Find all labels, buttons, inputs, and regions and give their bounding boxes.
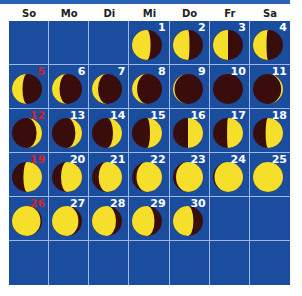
moon-phase-icon — [173, 162, 203, 192]
moon-phase-icon — [253, 118, 283, 148]
day-number: 8 — [158, 66, 166, 78]
day-number: 26 — [30, 198, 45, 210]
calendar-cell — [210, 241, 250, 285]
calendar-cell — [250, 241, 290, 285]
day-number: 30 — [190, 198, 205, 210]
moon-phase-icon — [213, 118, 243, 148]
moon-phase-icon — [253, 30, 283, 60]
calendar-day-cell: 8 — [129, 65, 169, 109]
weekday-saturday: Sa — [250, 6, 290, 21]
moon-phase-icon — [52, 74, 82, 104]
day-number: 15 — [150, 110, 165, 122]
calendar-day-cell: 10 — [210, 65, 250, 109]
weekday-sunday: So — [9, 6, 49, 21]
weekday-friday: Fr — [210, 6, 250, 21]
moon-phase-icon — [213, 30, 243, 60]
day-number: 24 — [231, 154, 246, 166]
day-number: 19 — [30, 154, 45, 166]
calendar-day-cell: 17 — [210, 109, 250, 153]
calendar-day-cell: 15 — [129, 109, 169, 153]
calendar-day-cell: 29 — [129, 197, 169, 241]
calendar-day-cell: 3 — [210, 21, 250, 65]
calendar-day-cell: 12 — [9, 109, 49, 153]
day-number: 2 — [198, 22, 206, 34]
calendar-day-cell: 27 — [49, 197, 89, 241]
calendar-day-cell: 14 — [89, 109, 129, 153]
moon-phase-icon — [52, 206, 82, 236]
moon-phase-icon — [213, 74, 243, 104]
moon-phase-icon — [92, 74, 122, 104]
calendar-day-cell: 13 — [49, 109, 89, 153]
calendar-day-cell: 7 — [89, 65, 129, 109]
day-number: 20 — [70, 154, 85, 166]
moon-phase-icon — [12, 74, 42, 104]
weekday-thursday: Do — [170, 6, 210, 21]
day-number: 4 — [279, 22, 287, 34]
calendar-day-cell: 11 — [250, 65, 290, 109]
moon-phase-icon — [52, 118, 82, 148]
day-number: 12 — [30, 110, 45, 122]
calendar-day-cell: 22 — [129, 153, 169, 197]
day-number: 14 — [110, 110, 125, 122]
moon-phase-icon — [173, 118, 203, 148]
moon-phase-icon — [92, 206, 122, 236]
moon-phase-icon — [132, 118, 162, 148]
calendar-day-cell: 30 — [170, 197, 210, 241]
moon-phase-icon — [173, 30, 203, 60]
calendar-day-cell: 25 — [250, 153, 290, 197]
day-number: 13 — [70, 110, 85, 122]
calendar-cell — [49, 21, 89, 65]
moon-phase-icon — [12, 162, 42, 192]
day-number: 16 — [190, 110, 205, 122]
calendar-day-cell: 2 — [170, 21, 210, 65]
calendar-cell — [9, 241, 49, 285]
calendar-cell — [9, 21, 49, 65]
moon-phase-icon — [92, 118, 122, 148]
calendar-day-cell: 9 — [170, 65, 210, 109]
calendar-day-cell: 6 — [49, 65, 89, 109]
moon-phase-icon — [173, 206, 203, 236]
day-number: 29 — [150, 198, 165, 210]
calendar-day-cell: 21 — [89, 153, 129, 197]
day-number: 3 — [238, 22, 246, 34]
day-number: 9 — [198, 66, 206, 78]
moon-phase-icon — [132, 74, 162, 104]
calendar-day-cell: 23 — [170, 153, 210, 197]
calendar-cell — [210, 197, 250, 241]
weekday-wednesday: Mi — [129, 6, 169, 21]
day-number: 5 — [37, 66, 45, 78]
moon-phase-icon — [173, 74, 203, 104]
calendar-day-cell: 19 — [9, 153, 49, 197]
weekday-monday: Mo — [49, 6, 89, 21]
moon-phase-icon — [253, 162, 283, 192]
moon-phase-icon — [132, 162, 162, 192]
moon-phase-icon — [12, 118, 42, 148]
day-number: 23 — [190, 154, 205, 166]
moon-phase-icon — [52, 162, 82, 192]
weekday-header: So Mo Di Mi Do Fr Sa — [9, 6, 290, 21]
moon-phase-icon — [253, 74, 283, 104]
moon-phase-icon — [12, 206, 42, 236]
calendar-day-cell: 18 — [250, 109, 290, 153]
day-number: 7 — [118, 66, 126, 78]
calendar-cell — [129, 241, 169, 285]
calendar-day-cell: 26 — [9, 197, 49, 241]
day-number: 11 — [272, 66, 287, 78]
calendar-day-cell: 4 — [250, 21, 290, 65]
day-number: 18 — [272, 110, 287, 122]
day-number: 17 — [231, 110, 246, 122]
moon-calendar-grid: 1234567891011121314151617181920212223242… — [9, 21, 290, 285]
calendar-day-cell: 20 — [49, 153, 89, 197]
calendar-day-cell: 24 — [210, 153, 250, 197]
moon-phase-icon — [132, 30, 162, 60]
day-number: 25 — [272, 154, 287, 166]
moon-phase-icon — [92, 162, 122, 192]
day-number: 21 — [110, 154, 125, 166]
weekday-tuesday: Di — [89, 6, 129, 21]
calendar-cell — [170, 241, 210, 285]
calendar-cell — [250, 197, 290, 241]
day-number: 10 — [231, 66, 246, 78]
top-strip — [0, 0, 290, 4]
day-number: 28 — [110, 198, 125, 210]
calendar-day-cell: 16 — [170, 109, 210, 153]
